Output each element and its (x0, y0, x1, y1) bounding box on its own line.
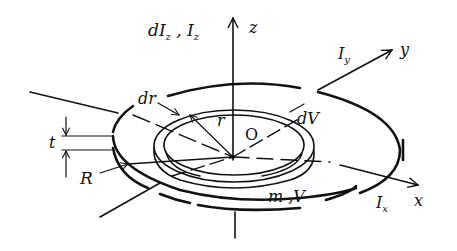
label-ring-volume: dV (297, 109, 320, 128)
y-axis-inner (233, 118, 300, 157)
label-moment-z: dIz , Iz (148, 20, 200, 42)
labels: dIz , Iz z Iy y Ix x dr r O dV t R m ,V (49, 18, 423, 214)
label-moment-x: Ix (375, 193, 388, 214)
neg-y-axis (100, 183, 160, 217)
label-ring-radius: r (217, 111, 226, 130)
ring-inner-top (164, 115, 304, 175)
ring-outer-top (154, 110, 314, 182)
y-axis (318, 50, 392, 90)
x-axis (340, 165, 418, 185)
label-mass-volume: m ,V (268, 187, 306, 206)
label-ring-width: dr (138, 89, 157, 108)
label-disk-radius: R (79, 168, 93, 188)
dr-leader (158, 103, 179, 115)
outer-disk-top-back-arc (168, 84, 300, 97)
label-x-axis: x (414, 191, 423, 210)
x-axis-inner (233, 157, 330, 162)
outer-disk-top-left-arc (113, 106, 133, 132)
outer-disk-bottom-front-arc (160, 194, 190, 203)
label-thickness: t (49, 133, 56, 152)
neg-x-axis (30, 92, 118, 113)
radius-R-line (128, 157, 233, 164)
label-origin: O (245, 125, 258, 144)
label-y-axis: y (399, 40, 410, 59)
annular-disk-diagram: dIz , Iz z Iy y Ix x dr r O dV t R m ,V (0, 0, 457, 251)
elemental-ring (154, 110, 314, 188)
r-leader (190, 115, 233, 157)
ring-inner-bottom-right (262, 154, 302, 176)
label-moment-y: Iy (337, 44, 350, 65)
outer-disk-top-front-arc (113, 136, 356, 200)
outer-disk (113, 84, 403, 210)
label-z-axis: z (248, 18, 258, 37)
